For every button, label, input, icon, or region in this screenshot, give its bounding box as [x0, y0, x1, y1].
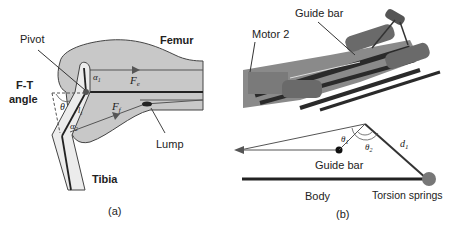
caption-a: (a) — [108, 205, 121, 217]
pivot-label: Pivot — [20, 33, 44, 45]
theta1-symbol: θ1 — [341, 134, 348, 145]
theta1-arc — [357, 131, 373, 135]
robot-render — [242, 8, 453, 110]
motor2-label: Motor 2 — [252, 28, 289, 40]
d1-symbol: d1 — [400, 138, 409, 151]
d1-link — [365, 124, 427, 179]
theta-symbol: θ — [60, 101, 65, 112]
lump-leader-line — [151, 108, 165, 133]
torsion-spring-joint — [422, 172, 436, 186]
guide-bar-bottom-label: Guide bar — [315, 159, 364, 171]
lump-shape — [142, 102, 152, 107]
ft-angle-label-2: angle — [9, 93, 38, 105]
caption-b: (b) — [336, 208, 349, 220]
upper-guide-line — [240, 124, 365, 150]
left-arrow-icon — [234, 146, 244, 154]
ft-angle-label-1: F-T — [16, 79, 33, 91]
pivot-point — [83, 89, 89, 95]
tibia-label: Tibia — [92, 173, 118, 185]
torsion-springs-label: Torsion springs — [372, 189, 443, 201]
figure: Pivot Femur F-T angle Lump Tibia α1 α2 l… — [0, 0, 453, 232]
theta2-symbol: θ2 — [365, 142, 372, 153]
theta2-arc — [352, 128, 378, 140]
guide-bar-top-label: Guide bar — [295, 7, 344, 19]
femur-label: Femur — [160, 34, 194, 46]
lump-label: Lump — [156, 138, 184, 150]
lower-cylinder — [282, 80, 322, 98]
panel-b: Guide bar Motor 2 θ1 θ2 d1 Guide bar Bod… — [234, 7, 453, 220]
panel-a: Pivot Femur F-T angle Lump Tibia α1 α2 l… — [9, 33, 203, 217]
body-label: Body — [305, 190, 331, 202]
